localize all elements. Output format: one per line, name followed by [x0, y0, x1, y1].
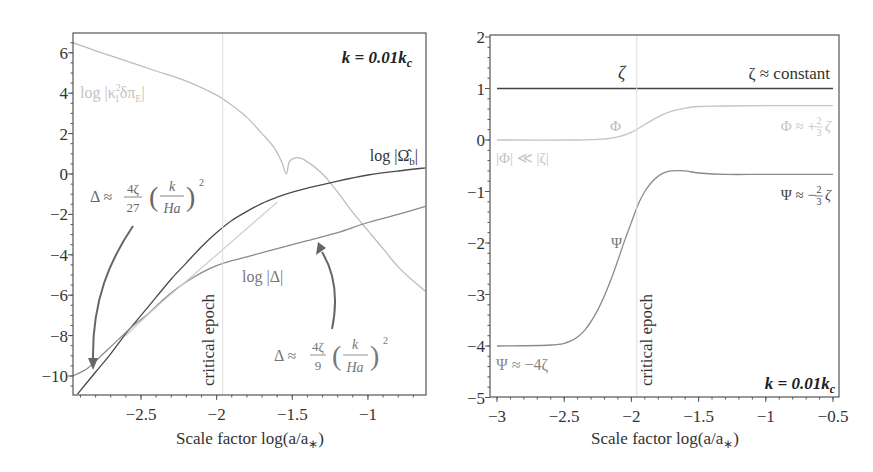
left-k-label: k = 0.01kc [342, 48, 413, 70]
svg-text:3: 3 [817, 127, 822, 138]
critical-epoch-label-right: critical epoch [637, 293, 656, 386]
psi-early-label: Ψ ≈ −4ζ [496, 356, 549, 374]
x-tick-label: −1.5 [277, 405, 308, 424]
svg-text:2: 2 [199, 177, 204, 188]
phi-asymptote-label: Φ ≈ + [781, 118, 816, 134]
arrow-27 [93, 226, 133, 360]
phi-small-label: |Φ| ≪ |ζ| [496, 150, 549, 166]
svg-text:4ζ: 4ζ [312, 339, 325, 354]
y-tick-label: 2 [477, 28, 486, 47]
psi-asymptote-label: Ψ ≈ − [781, 187, 816, 203]
zeta-constant-label: ζ ≈ constant [748, 64, 830, 83]
svg-text:2: 2 [383, 335, 388, 346]
arrow-9 [322, 252, 335, 329]
svg-text:4ζ: 4ζ [127, 181, 140, 196]
y-tick-label: −4 [50, 246, 69, 265]
svg-text:k: k [352, 337, 359, 352]
svg-text:Ha: Ha [162, 201, 180, 216]
omega-label: log |Ω̂b| [370, 147, 418, 167]
y-tick-label: −10 [41, 367, 68, 386]
arrow-9-head [316, 242, 326, 255]
svg-text:9: 9 [315, 358, 322, 373]
y-tick-label: −2 [50, 205, 68, 224]
kappa-label: log |κ21δπE| [80, 82, 145, 104]
svg-text:Δ ≈: Δ ≈ [90, 188, 112, 205]
y-tick-label: 4 [60, 84, 69, 103]
delta-label: log |Δ| [242, 268, 283, 286]
y-tick-label: 0 [60, 165, 69, 184]
svg-text:2: 2 [817, 115, 822, 126]
y-tick-label: 1 [477, 80, 486, 99]
x-tick-label: −1.5 [683, 407, 714, 426]
psi-frac: 2 3 ζ [815, 184, 832, 207]
svg-text:): ) [370, 340, 379, 371]
left-panel: 6420−2−4−6−8−10−2.5−2−1.5−1 k = 0.01kc l… [41, 33, 426, 451]
svg-text:2: 2 [817, 184, 822, 195]
critical-epoch-label-left: critical epoch [199, 293, 218, 386]
x-tick-label: −1 [757, 407, 775, 426]
x-tick-label: −3 [488, 407, 506, 426]
svg-text:(: ( [149, 181, 158, 212]
x-tick-label: −1 [359, 405, 377, 424]
right-x-axis-label: Scale factor log(a/a∗) [591, 429, 739, 451]
phi-label: Φ [610, 118, 621, 134]
y-tick-label: 0 [477, 131, 486, 150]
svg-text:Δ ≈: Δ ≈ [274, 347, 296, 364]
y-tick-label: −2 [467, 234, 485, 253]
y-tick-label: −1 [467, 183, 485, 202]
figure: 6420−2−4−6−8−10−2.5−2−1.5−1 k = 0.01kc l… [0, 0, 873, 472]
x-tick-label: −0.5 [818, 407, 849, 426]
right-plot-frame [490, 35, 839, 397]
svg-text:Ha: Ha [345, 360, 363, 375]
y-tick-label: −5 [467, 389, 485, 408]
x-tick-label: −2.5 [126, 405, 157, 424]
y-tick-label: 2 [60, 125, 69, 144]
right-k-label: k = 0.01kc [765, 374, 836, 396]
x-tick-label: −2 [208, 405, 226, 424]
annotation-delta-27: Δ ≈ 4ζ 27 ( k Ha ) 2 [90, 177, 204, 216]
y-tick-label: −6 [50, 286, 68, 305]
svg-text:27: 27 [127, 200, 141, 215]
right-panel: 210−1−2−3−4−5−3−2.5−2−1.5−1−0.5 ζ ζ ≈ co… [467, 28, 849, 451]
y-tick-label: −4 [467, 337, 486, 356]
psi-label: Ψ [611, 235, 623, 251]
curve-0 [73, 43, 426, 292]
phi-frac: 2 3 ζ [815, 115, 832, 138]
arrow-27-head [88, 358, 98, 370]
x-tick-label: −2.5 [549, 407, 580, 426]
left-x-axis-label: Scale factor log(a/a∗) [176, 429, 324, 451]
zeta-label: ζ [618, 63, 627, 83]
svg-text:ζ: ζ [825, 187, 832, 203]
svg-text:(: ( [332, 340, 341, 371]
svg-text:k: k [169, 179, 176, 194]
y-tick-label: −8 [50, 327, 68, 346]
svg-text:): ) [186, 181, 195, 212]
annotation-delta-9: Δ ≈ 4ζ 9 ( k Ha ) 2 [274, 335, 388, 375]
svg-text:3: 3 [817, 196, 822, 207]
svg-text:ζ: ζ [825, 118, 832, 134]
y-tick-label: −3 [467, 286, 485, 305]
x-tick-label: −2 [622, 407, 640, 426]
y-tick-label: 6 [60, 44, 69, 63]
